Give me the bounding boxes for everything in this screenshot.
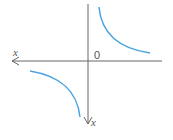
horizontal-axis-label: x: [13, 46, 18, 58]
vertical-axis-label: x: [91, 116, 96, 128]
hyperbola-diagram: [0, 0, 173, 140]
curve-lower-left: [30, 71, 80, 117]
origin-label: 0: [94, 49, 100, 61]
curve-upper-right: [99, 7, 150, 53]
